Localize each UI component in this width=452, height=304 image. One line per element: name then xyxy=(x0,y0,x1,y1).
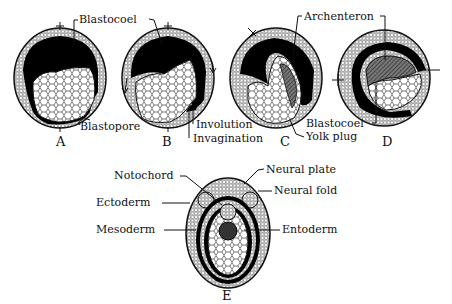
svg-text:Blastopore: Blastopore xyxy=(80,120,140,133)
label-mesoderm: Mesoderm xyxy=(96,223,196,236)
panel-letter-d: D xyxy=(382,134,392,149)
label-neural-fold: Neural fold xyxy=(258,184,337,197)
svg-text:Notochord: Notochord xyxy=(114,169,173,182)
gastrulation-diagram: Blastocoel Blastopore Involution Invagin… xyxy=(0,0,452,304)
embryo-a xyxy=(14,22,106,132)
svg-text:Neural fold: Neural fold xyxy=(274,184,337,197)
svg-text:Blastocoel: Blastocoel xyxy=(306,117,364,130)
svg-text:Blastocoel: Blastocoel xyxy=(79,13,137,26)
svg-text:Entoderm: Entoderm xyxy=(282,223,338,236)
label-blastopore: Blastopore xyxy=(78,120,140,133)
panel-letter-e: E xyxy=(222,288,232,303)
label-ectoderm: Ectoderm xyxy=(96,196,190,209)
panel-letter-b: B xyxy=(162,134,172,149)
svg-text:Archenteron: Archenteron xyxy=(303,10,374,23)
label-neural-plate: Neural plate xyxy=(244,163,336,184)
svg-text:Yolk plug: Yolk plug xyxy=(305,130,357,143)
embryo-c xyxy=(230,28,322,128)
panel-letter-c: C xyxy=(280,134,290,149)
svg-text:Ectoderm: Ectoderm xyxy=(96,196,151,209)
embryo-b xyxy=(122,22,216,132)
embryo-d xyxy=(332,30,440,126)
svg-text:Neural plate: Neural plate xyxy=(266,163,336,176)
svg-text:Mesoderm: Mesoderm xyxy=(96,223,156,236)
svg-text:Invagination: Invagination xyxy=(193,132,263,145)
panel-letter-a: A xyxy=(55,134,66,149)
svg-text:Involution: Involution xyxy=(196,118,253,131)
embryo-e xyxy=(186,178,270,288)
